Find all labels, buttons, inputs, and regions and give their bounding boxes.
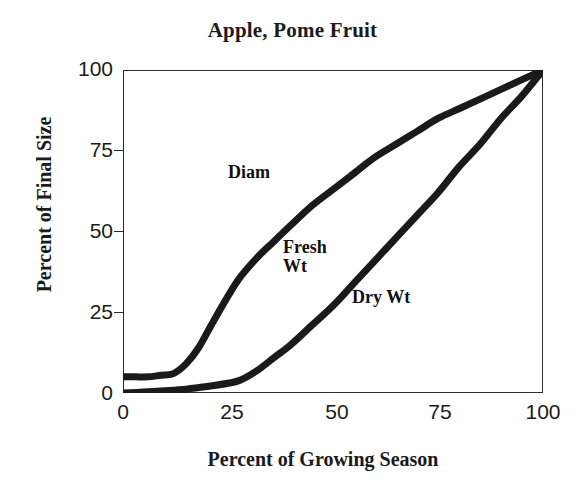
y-tick-label-50: 50 [55, 219, 113, 243]
series-label-fresh-wt: FreshWt [283, 238, 327, 276]
y-tick-mark-50 [114, 231, 123, 232]
x-axis-title: Percent of Growing Season [83, 448, 563, 471]
y-tick-label-75: 75 [55, 138, 113, 162]
y-tick-mark-25 [114, 312, 123, 313]
y-tick-label-25: 25 [55, 300, 113, 324]
series-curve-fresh-wt [123, 70, 543, 393]
y-tick-label-100: 100 [55, 57, 113, 81]
y-tick-mark-75 [114, 150, 123, 151]
y-axis-title: Percent of Final Size [33, 65, 56, 345]
x-tick-label-50: 50 [307, 400, 367, 424]
x-tick-label-0: 0 [93, 400, 153, 424]
series-label-fresh-wt-line1: Fresh [283, 237, 327, 257]
page-title: Apple, Pome Fruit [0, 18, 585, 43]
series-label-fresh-wt-line2: Wt [283, 256, 307, 276]
series-label-dry-wt: Dry Wt [352, 288, 410, 307]
series-label-diam: Diam [228, 163, 270, 182]
chart-page: Apple, Pome Fruit Percent of Final Size … [0, 0, 585, 492]
series-curve-diam [123, 70, 543, 377]
x-tick-label-75: 75 [410, 400, 470, 424]
chart-curves [123, 70, 543, 393]
x-tick-label-25: 25 [202, 400, 262, 424]
x-tick-label-100: 100 [513, 400, 573, 424]
